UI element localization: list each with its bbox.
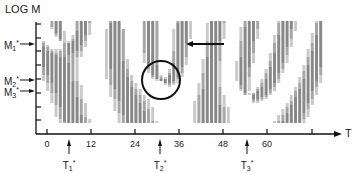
isochron-hatch-pattern [42, 22, 322, 122]
m-sup: * [16, 75, 19, 82]
x-tick-label: 24 [130, 139, 140, 149]
m-sup: * [16, 86, 19, 93]
x-tick-label: 60 [262, 139, 272, 149]
t-sup: * [251, 159, 254, 166]
m-marker-label-1: M1* [4, 38, 19, 54]
m-sub: 3 [12, 92, 16, 99]
t-sup: * [73, 159, 76, 166]
t-sub: 1 [69, 165, 73, 172]
x-axis-ticks [47, 129, 312, 134]
x-tick-label: 0 [44, 139, 49, 149]
y-axis-title: LOG M [5, 4, 40, 14]
x-axis-arrowhead-icon [334, 131, 342, 137]
m-sub: 1 [12, 45, 16, 52]
t-marker-label-2: T2* [154, 158, 167, 173]
m-sup: * [16, 39, 19, 46]
y-axis-ticks [36, 24, 41, 120]
x-tick-label: 36 [174, 139, 184, 149]
x-axis-title: T [345, 128, 352, 138]
m-marker-label-3: M3* [4, 85, 19, 101]
t-sub: 2 [160, 165, 164, 172]
t-sup: * [164, 159, 167, 166]
t-marker-label-3: T3* [241, 158, 254, 173]
x-tick-label: 12 [86, 139, 96, 149]
m-marker-arrows [20, 42, 35, 93]
x-tick-label: 48 [218, 139, 228, 149]
t-sub: 3 [247, 165, 251, 172]
t-marker-label-1: T1* [63, 158, 76, 173]
